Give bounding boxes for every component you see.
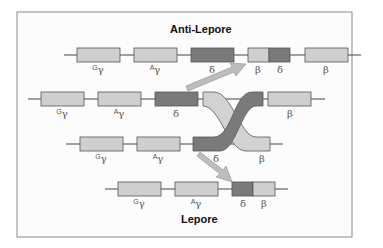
gene-box-a-gamma	[175, 182, 218, 196]
gene-label-beta: β	[287, 109, 293, 119]
gene-label-delta: δ	[213, 154, 219, 164]
anti-lepore-title: Anti-Lepore	[170, 23, 232, 35]
gene-label-a-gamma: Aγ	[191, 198, 202, 209]
gene-label-delta: δ	[209, 65, 215, 75]
diagram-canvas	[0, 0, 383, 248]
gene-box-delta	[191, 48, 234, 62]
gene-label-g-gamma: Gγ	[95, 153, 106, 164]
gene-box-g-gamma	[118, 182, 161, 196]
gene-box-g-gamma	[41, 92, 84, 106]
gene-label-a-gamma: Aγ	[150, 64, 161, 75]
row-lepore	[105, 182, 288, 196]
gene-label-a-gamma: Aγ	[153, 153, 164, 164]
gene-label-delta: δ	[173, 109, 179, 119]
gene-label-beta: β	[323, 65, 329, 75]
gene-box-a-gamma	[98, 92, 141, 106]
gene-box-g-gamma	[80, 137, 123, 151]
gene-label-hybrid-beta: β	[261, 199, 267, 209]
gene-label-beta: β	[259, 154, 265, 164]
gene-box-a-gamma	[134, 48, 177, 62]
gene-box-hybrid-delta	[232, 182, 253, 196]
gene-label-hybrid-delta: δ	[277, 65, 283, 75]
gene-box-a-gamma	[137, 137, 180, 151]
gene-label-a-gamma: Aγ	[114, 108, 125, 119]
gene-label-g-gamma: Gγ	[92, 64, 103, 75]
row-upper-parental	[28, 92, 325, 106]
gene-box-g-gamma	[77, 48, 120, 62]
gene-box-beta	[268, 92, 311, 106]
gene-label-g-gamma: Gγ	[133, 198, 144, 209]
figure-frame	[17, 12, 352, 237]
gene-label-g-gamma: Gγ	[56, 108, 67, 119]
gene-box-hybrid-beta	[253, 182, 275, 196]
row-anti-lepore	[64, 48, 361, 62]
gene-label-hybrid-beta: β	[255, 65, 261, 75]
gene-box-hybrid-beta	[248, 48, 269, 62]
gene-box-beta	[305, 48, 348, 62]
gene-box-delta	[155, 92, 198, 106]
gene-box-hybrid-delta	[269, 48, 290, 62]
gene-label-hybrid-delta: δ	[240, 199, 246, 209]
lepore-title: Lepore	[181, 213, 218, 225]
diagram-stage: Anti-Lepore Lepore Gγ Aγ δ β δ β Gγ Aγ δ…	[0, 0, 383, 248]
